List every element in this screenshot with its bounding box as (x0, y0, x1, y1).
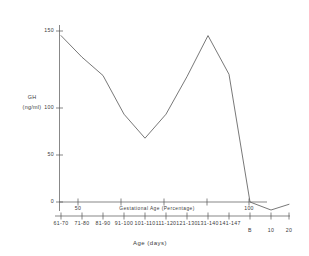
x-tick-label-101-110: 101-110 (134, 221, 155, 226)
gh-data-line (61, 36, 289, 210)
y-tick-label-150: 150 (44, 28, 54, 33)
x-axis-title: Age (days) (133, 240, 167, 246)
x-tick-label-71-80: 71-80 (74, 221, 89, 226)
x-tick-label-131-140: 131-140 (197, 221, 219, 226)
secondary-x-tick-label-100: 100 (244, 206, 254, 211)
y-axis-title: GH (ng/ml) (23, 92, 42, 113)
y-axis-title-line2: (ng/ml) (23, 102, 42, 112)
x-tick-label-birth: B (248, 228, 252, 233)
x-tick-label-20: 20 (286, 228, 292, 233)
chart-figure: 0 50 100 150 GH (ng/ml) 50 100 Gestation… (0, 0, 309, 256)
secondary-x-tick-label-50: 50 (75, 206, 81, 211)
x-tick-label-81-90: 81-90 (95, 221, 110, 226)
y-tick-label-0: 0 (51, 199, 54, 204)
y-axis-title-line1: GH (23, 92, 42, 102)
x-tick-label-111-120: 111-120 (156, 221, 177, 226)
x-tick-label-61-70: 61-70 (53, 221, 68, 226)
secondary-x-axis-title: Gestational Age (Percentage) (119, 206, 195, 211)
chart-plot-area (0, 0, 309, 256)
x-tick-label-121-130: 121-130 (176, 221, 198, 226)
y-tick-label-100: 100 (44, 105, 54, 110)
x-tick-label-141-147: 141-147 (219, 221, 241, 226)
y-tick-label-50: 50 (48, 152, 54, 157)
x-tick-label-91-100: 91-100 (115, 221, 133, 226)
x-tick-label-10: 10 (268, 228, 274, 233)
